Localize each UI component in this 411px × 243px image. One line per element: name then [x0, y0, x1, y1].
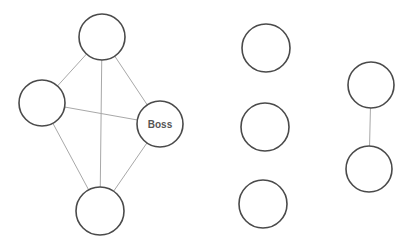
edges-layer	[53, 54, 371, 191]
edge-n1-n4	[100, 60, 101, 187]
node-n8[interactable]	[348, 62, 394, 108]
node-n1[interactable]	[79, 14, 125, 60]
node-n6[interactable]	[241, 103, 289, 151]
edge-n1-n3	[115, 56, 147, 105]
node-circle[interactable]	[242, 24, 290, 72]
node-n5[interactable]	[242, 24, 290, 72]
node-boss[interactable]: Boss	[137, 101, 183, 147]
edge-n3-n4	[114, 143, 147, 191]
node-circle[interactable]	[19, 80, 65, 126]
edge-n8-n9	[370, 108, 371, 146]
node-n9[interactable]	[346, 146, 392, 192]
node-circle[interactable]	[348, 62, 394, 108]
node-n7[interactable]	[239, 180, 287, 228]
node-circle[interactable]	[79, 14, 125, 60]
node-n2[interactable]	[19, 80, 65, 126]
node-circle[interactable]	[239, 180, 287, 228]
edge-n2-n4	[53, 123, 89, 190]
nodes-layer: Boss	[19, 14, 394, 235]
node-label: Boss	[148, 119, 173, 130]
node-circle[interactable]	[76, 187, 124, 235]
node-n4[interactable]	[76, 187, 124, 235]
edge-n1-n2	[57, 54, 86, 86]
node-circle[interactable]	[346, 146, 392, 192]
diagram-canvas: Boss	[0, 0, 411, 243]
node-circle[interactable]	[241, 103, 289, 151]
